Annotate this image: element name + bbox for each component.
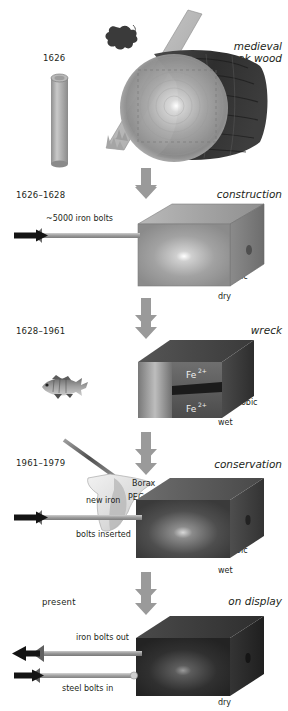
new-iron-bolt-arrow-icon [10, 506, 142, 530]
log-icon [46, 72, 76, 170]
stage-title: construction [217, 188, 282, 200]
svg-text:2+: 2+ [198, 367, 207, 374]
timber-block-icon [136, 202, 266, 292]
stage-conservation: 1961–1979 conservation aerobic wet Borax… [0, 450, 288, 600]
wreck-block-icon: Fe 2+ Fe 2+ [136, 338, 256, 424]
steel-bolts-in-label: steel bolts in [62, 684, 113, 693]
new-bolt-label-line1: new iron [86, 496, 120, 505]
flow-arrow-icon [134, 446, 158, 476]
svg-text:2+: 2+ [198, 401, 207, 408]
display-block-icon [134, 614, 266, 700]
iron-bolt-arrow-icon [10, 224, 142, 248]
stage-year-label: 1626–1628 [16, 190, 65, 200]
stage-felling: 1626 medieval oak wood [0, 0, 288, 170]
conserved-block-icon [134, 476, 266, 562]
bolt-count-label: ~5000 iron bolts [46, 214, 113, 223]
fish-icon [36, 372, 96, 402]
new-bolt-label-line2: bolts inserted [76, 530, 131, 539]
flow-arrow-icon [134, 170, 158, 200]
stage-title: wreck [251, 324, 282, 336]
iron-bolts-out-label: iron bolts out [76, 633, 129, 642]
stage-title: on display [228, 595, 282, 607]
stage-year-label: present [42, 597, 76, 607]
stage-year-label: 1626 [43, 53, 65, 63]
environment-line2: dry [218, 292, 248, 302]
iron-bolts-out-arrow-icon [10, 642, 142, 666]
environment-line2: wet [218, 566, 248, 576]
stage-wreck: 1628–1961 wreck anaerobic wet [0, 310, 288, 450]
flow-arrow-icon [134, 310, 158, 340]
stage-year-label: 1628–1961 [16, 326, 65, 336]
flow-arrow-icon [134, 586, 158, 616]
stage-on-display: present on display aerobic dry [0, 600, 288, 700]
stage-title: conservation [214, 458, 282, 470]
oak-log-endgrain-icon [120, 48, 276, 170]
svg-text:Fe: Fe [186, 404, 197, 414]
svg-text:Fe: Fe [186, 370, 197, 380]
stage-construction: 1626–1628 construction aerobic dry [0, 170, 288, 310]
